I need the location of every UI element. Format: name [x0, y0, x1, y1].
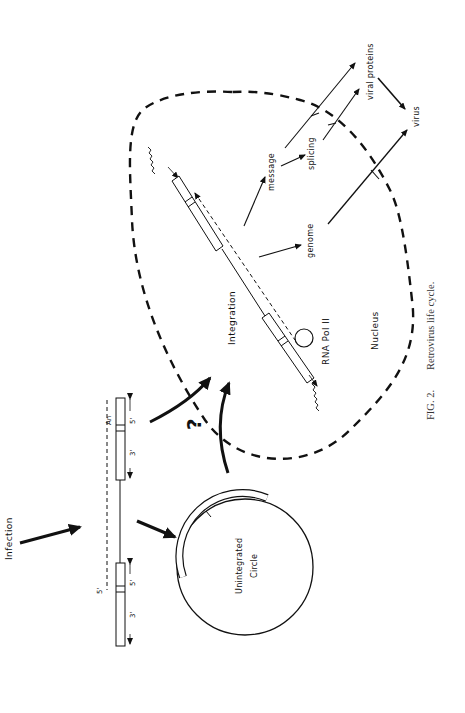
genome-label: genome [306, 224, 315, 258]
arrow-to-genome [259, 245, 301, 257]
circularization-arrow [137, 521, 175, 537]
arrow-to-message [244, 177, 265, 226]
infection-label: Infection [4, 517, 14, 560]
unintegrated-label-line2: Circle [250, 554, 259, 578]
integration-label: Integration [227, 291, 237, 345]
figure-caption-text: Retrovirus life cycle. [425, 282, 436, 370]
virus-label: virus [412, 106, 421, 127]
integration-arrow-linear [150, 378, 210, 422]
figure-caption-label: FIG. 2. [425, 390, 436, 420]
rna-pol-label: RNA Pol II [321, 318, 331, 365]
three-prime-label-bottom-box: 3' [129, 612, 137, 618]
unintegrated-label-line1: Unintegrated [235, 538, 244, 594]
splicing-label: splicing [307, 137, 316, 170]
viral-proteins-label: viral proteins [366, 43, 375, 100]
integration-arrow-circle [220, 383, 229, 473]
three-prime-label-top-box: 3' [129, 450, 137, 456]
integrated-provirus [148, 147, 319, 411]
arrow-viral-proteins-to-virus [378, 78, 405, 109]
arrow-message-to-splicing [281, 155, 305, 166]
linear-dna: An 5' 5' 3' 5' 3' [96, 398, 137, 646]
arrow-splicing-to-viral-proteins [323, 89, 359, 140]
five-prime-label-top-box: 5' [129, 418, 137, 424]
infection-arrow [20, 527, 80, 543]
five-prime-label-left: 5' [96, 588, 104, 594]
arrow-message-to-viral-proteins [285, 63, 355, 148]
question-mark: ? [182, 418, 206, 430]
nucleus-label: Nucleus [370, 311, 380, 350]
message-label: message [267, 153, 276, 191]
arrow-genome-to-virus [328, 130, 407, 224]
rna-pol-ii-circle [295, 329, 313, 347]
unintegrated-circle: Unintegrated Circle [177, 493, 313, 635]
five-prime-label-bottom-box: 5' [129, 580, 137, 586]
nucleus-membrane [130, 92, 413, 459]
poly-a-label: An [105, 416, 113, 425]
retrovirus-life-cycle-diagram: Infection An 5' 5' 3' 5' 3' Unintegrated… [0, 0, 465, 713]
